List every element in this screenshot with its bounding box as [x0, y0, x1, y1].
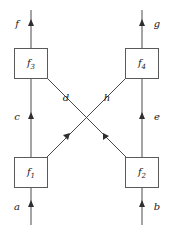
box-f4-label: f4 — [138, 57, 146, 71]
arrowhead-g-icon — [139, 19, 145, 26]
wire-label-g: g — [154, 18, 160, 29]
box-f3-label: f3 — [27, 57, 35, 71]
wire-label-h: h — [104, 92, 110, 103]
wire-label-a: a — [14, 201, 20, 212]
arrowhead-a-icon — [28, 200, 34, 207]
box-f2-label: f2 — [138, 166, 146, 180]
arrowhead-h-icon — [63, 133, 70, 140]
wire-label-e: e — [154, 111, 160, 122]
arrowhead-c-icon — [28, 112, 34, 119]
wire-label-b: b — [154, 201, 160, 212]
box-f2-sub: 2 — [142, 172, 146, 180]
box-f1-label: f1 — [27, 166, 35, 180]
box-f1-sub: 1 — [31, 172, 35, 180]
wire-label-d: d — [63, 92, 69, 103]
arrowhead-b-icon — [139, 200, 145, 207]
arrowhead-f-icon — [28, 19, 34, 26]
wire-label-c: c — [14, 111, 20, 122]
box-f3-sub: 3 — [31, 63, 35, 71]
wire-label-f: f — [15, 18, 19, 29]
box-f4-sub: 4 — [142, 63, 146, 71]
diagram-vector-layer — [0, 0, 171, 232]
string-diagram-canvas: f3 f4 f1 f2 f g c e a b d h — [0, 0, 171, 232]
arrowhead-e-icon — [139, 112, 145, 119]
